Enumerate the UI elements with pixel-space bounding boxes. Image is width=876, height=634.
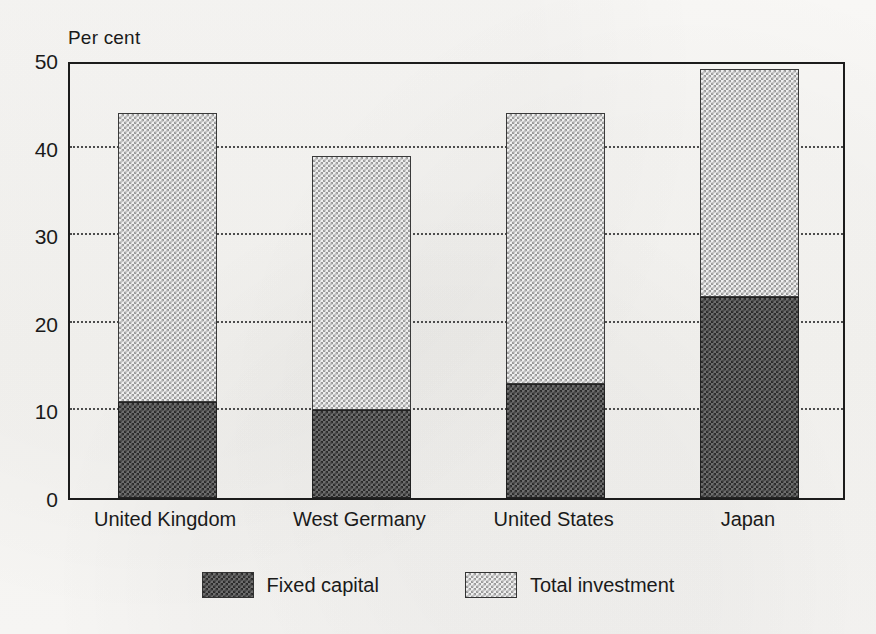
legend-item: Total investment <box>465 572 675 598</box>
x-axis-label-united-kingdom: United Kingdom <box>94 508 236 531</box>
y-tick-label-40: 40 <box>0 138 58 162</box>
legend-label: Fixed capital <box>267 574 379 597</box>
bar-segment-total-investment <box>506 113 605 385</box>
x-axis-label-west-germany: West Germany <box>293 508 426 531</box>
x-axis-label-united-states: United States <box>494 508 614 531</box>
bar-segment-total-investment <box>118 113 217 402</box>
bar-segment-fixed-capital <box>118 402 217 498</box>
y-axis-tick-labels: 01020304050 <box>0 62 58 500</box>
bar-group <box>118 113 217 498</box>
y-tick-label-50: 50 <box>0 50 58 74</box>
bar-group <box>312 156 411 498</box>
y-tick-label-10: 10 <box>0 400 58 424</box>
chart-legend: Fixed capitalTotal investment <box>0 572 876 598</box>
legend-item: Fixed capital <box>202 572 379 598</box>
bar-segment-fixed-capital <box>700 297 799 498</box>
y-tick-label-20: 20 <box>0 313 58 337</box>
dark-checkerboard-swatch <box>202 572 254 598</box>
legend-label: Total investment <box>530 574 675 597</box>
bar-segment-total-investment <box>700 69 799 297</box>
y-tick-label-0: 0 <box>0 488 58 512</box>
bar-segment-fixed-capital <box>506 384 605 498</box>
y-tick-label-30: 30 <box>0 225 58 249</box>
bar-group <box>700 69 799 498</box>
stacked-bar-chart-figure: Per cent 01020304050 United KingdomWest … <box>0 0 876 634</box>
bar-segment-total-investment <box>312 156 411 410</box>
light-checkerboard-swatch <box>465 572 517 598</box>
plot-area <box>68 62 845 500</box>
bar-segment-fixed-capital <box>312 410 411 498</box>
bar-group <box>506 113 605 498</box>
x-axis-label-japan: Japan <box>721 508 776 531</box>
y-axis-unit-label: Per cent <box>68 27 140 49</box>
